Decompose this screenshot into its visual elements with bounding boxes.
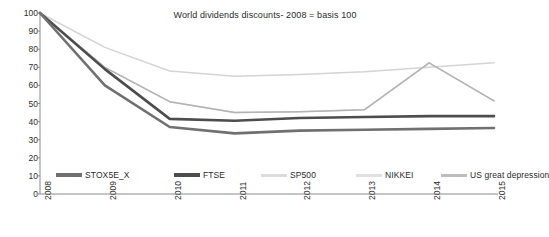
chart-legend: STOX5E_XFTSESP500NIKKEIUS great depressi…	[56, 167, 496, 183]
legend-item[interactable]: SP500	[261, 167, 316, 183]
series-lines	[40, 13, 494, 133]
legend-swatch-icon	[56, 173, 82, 177]
legend-item-label: FTSE	[203, 171, 225, 180]
legend-item[interactable]: NIKKEI	[356, 167, 413, 183]
legend-swatch-icon	[174, 173, 200, 177]
legend-swatch-icon	[356, 174, 382, 177]
legend-swatch-icon	[441, 174, 467, 177]
series-line	[40, 13, 494, 113]
legend-item[interactable]: US great depression	[441, 167, 549, 183]
legend-swatch-icon	[261, 174, 287, 177]
legend-item-label: STOX5E_X	[85, 171, 130, 180]
series-line	[40, 13, 494, 113]
series-line	[40, 13, 494, 76]
legend-item-label: SP500	[290, 171, 316, 180]
legend-item[interactable]: FTSE	[174, 167, 225, 183]
legend-item-label: NIKKEI	[385, 171, 413, 180]
legend-item[interactable]: STOX5E_X	[56, 167, 130, 183]
legend-item-label: US great depression	[470, 171, 549, 180]
